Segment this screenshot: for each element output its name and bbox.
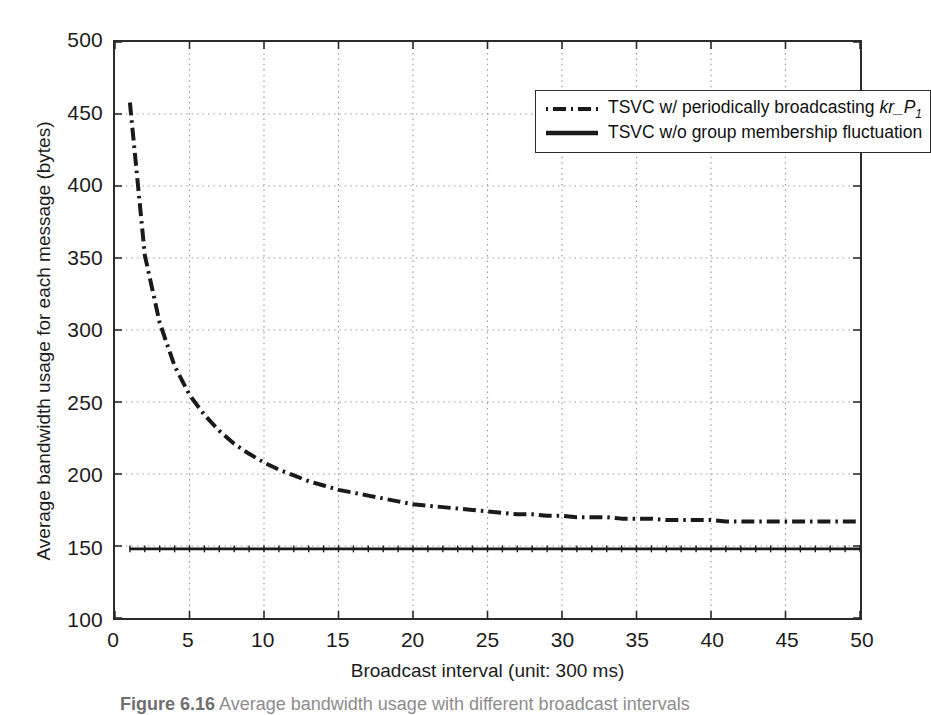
x-tick-label-50: 50 [850, 628, 873, 652]
chart-legend: TSVC w/ periodically broadcasting kr_P1 … [535, 90, 931, 153]
x-tick-label-5: 5 [182, 628, 194, 652]
x-tick-label-45: 45 [775, 628, 798, 652]
plot-area: TSVC w/ periodically broadcasting kr_P1 … [113, 40, 862, 620]
legend-label-dashdot-subscript: 1 [915, 106, 922, 120]
x-tick-label-15: 15 [326, 628, 349, 652]
dash-dot-line-sample [544, 101, 600, 117]
legend-label-dashdot-symbol: kr_P [879, 97, 915, 117]
y-axis-title: Average bandwidth usage for each message… [33, 51, 55, 631]
x-tick-label-40: 40 [701, 628, 724, 652]
x-axis-title: Broadcast interval (unit: 300 ms) [113, 660, 862, 682]
x-tick-label-25: 25 [476, 628, 499, 652]
series-line-0 [130, 102, 860, 521]
legend-entry-solid: TSVC w/o group membership fluctuation [544, 121, 922, 145]
x-tick-label-35: 35 [626, 628, 649, 652]
figure-caption: Figure 6.16 Average bandwidth usage with… [120, 694, 820, 715]
figure-caption-text: Average bandwidth usage with different b… [219, 694, 690, 714]
legend-label-dashdot: TSVC w/ periodically broadcasting kr_P1 [608, 99, 922, 120]
x-tick-label-10: 10 [251, 628, 274, 652]
figure-caption-number: Figure 6.16 [120, 694, 215, 714]
x-tick-label-30: 30 [551, 628, 574, 652]
solid-line-sample [544, 125, 600, 141]
x-tick-label-20: 20 [401, 628, 424, 652]
legend-label-dashdot-text: TSVC w/ periodically broadcasting [608, 97, 879, 117]
x-tick-label-0: 0 [107, 628, 119, 652]
legend-label-solid: TSVC w/o group membership fluctuation [608, 124, 922, 142]
legend-entry-dashdot: TSVC w/ periodically broadcasting kr_P1 [544, 97, 922, 121]
